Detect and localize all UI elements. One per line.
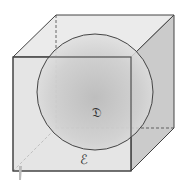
inscribed-sphere	[37, 34, 153, 150]
corner-mark-icon	[19, 166, 22, 180]
cube-sphere-diagram: 𝔇 ℰ	[0, 0, 182, 185]
cube-label: ℰ	[80, 152, 88, 167]
sphere-label: 𝔇	[92, 105, 102, 120]
